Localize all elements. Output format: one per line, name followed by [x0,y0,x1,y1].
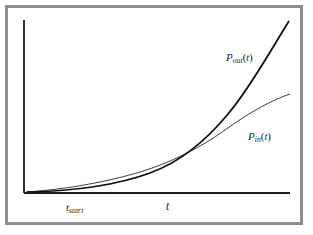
series-line-p-out [27,21,289,192]
p-out-subscript: out [233,56,243,65]
p-out-base: P [226,51,233,63]
t-axis-base: t [166,200,169,212]
p-in-close-paren: ) [267,130,271,142]
plot-canvas [0,0,313,235]
series-label-p-in: Pin(t) [248,127,271,144]
power-growth-curve-figure: Pout(t) Pin(t) tstart t [0,0,313,235]
series-label-p-out: Pout(t) [226,48,253,65]
p-in-base: P [248,130,255,142]
t-start-subscript: start [69,206,83,215]
p-out-close-paren: ) [249,51,253,63]
x-axis-label-t: t [166,197,169,213]
x-axis-tick-label-t-start: tstart [66,198,83,215]
